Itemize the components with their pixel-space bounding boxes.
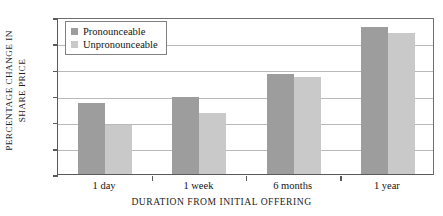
bar-chart-figure: PERCENTAGE CHANGE IN SHARE PRICE 0510152… — [0, 0, 443, 216]
y-axis-title-line-1: PERCENTAGE CHANGE IN — [4, 30, 14, 151]
x-axis-title: DURATION FROM INITIAL OFFERING — [0, 196, 443, 207]
x-tick-mark — [246, 176, 248, 181]
bar-unpronounceable-6-months — [294, 77, 321, 174]
legend: Pronounceable Unpronounceable — [65, 21, 167, 55]
x-tick-mark — [340, 176, 342, 181]
legend-swatch-pronounceable — [71, 28, 78, 35]
x-tick-label: 6 months — [273, 180, 312, 191]
legend-label-unpronounceable: Unpronounceable — [83, 39, 158, 50]
x-tick-label: 1 year — [374, 180, 400, 191]
bar-unpronounceable-1-week — [199, 113, 226, 174]
bar-unpronounceable-1-day — [105, 125, 132, 174]
legend-item: Unpronounceable — [71, 38, 158, 51]
bar-unpronounceable-1-year — [388, 33, 415, 174]
x-tick-label: 1 week — [183, 180, 213, 191]
bar-pronounceable-6-months — [267, 74, 294, 175]
legend-swatch-unpronounceable — [71, 41, 78, 48]
y-axis-title-line-2: SHARE PRICE — [15, 30, 28, 151]
y-tick-mark — [53, 175, 58, 177]
legend-item: Pronounceable — [71, 25, 158, 38]
x-tick-label: 1 day — [93, 180, 116, 191]
bar-pronounceable-1-week — [172, 97, 199, 174]
x-tick-mark — [152, 176, 154, 181]
bar-pronounceable-1-year — [361, 27, 388, 174]
bar-pronounceable-1-day — [78, 103, 105, 174]
legend-label-pronounceable: Pronounceable — [83, 26, 145, 37]
y-axis-title: PERCENTAGE CHANGE IN SHARE PRICE — [0, 0, 30, 180]
